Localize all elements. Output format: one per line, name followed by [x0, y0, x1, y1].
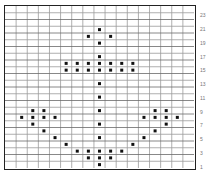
stitch-dot [87, 62, 90, 65]
stitch-dot [98, 163, 101, 166]
stitch-dot [87, 156, 90, 159]
row-number-labels: 2321191715131197531 [200, 5, 209, 170]
stitch-dot [120, 150, 123, 153]
stitch-dot [154, 129, 157, 132]
stitch-dot [54, 116, 57, 119]
stitch-dot [98, 82, 101, 85]
stitch-dot [98, 55, 101, 58]
row-label: 11 [200, 95, 205, 101]
row-label: 19 [200, 40, 206, 46]
stitch-dot [109, 156, 112, 159]
stitch-dot [31, 116, 34, 119]
stitch-dot [87, 35, 90, 38]
stitch-dot [165, 116, 168, 119]
stitch-dot [31, 109, 34, 112]
row-label: 21 [200, 26, 206, 32]
stitch-dot [98, 109, 101, 112]
stitch-dot [76, 150, 79, 153]
row-label: 5 [200, 136, 203, 142]
stitch-dot [98, 42, 101, 45]
stitch-dot [98, 156, 101, 159]
stitch-dot [98, 136, 101, 139]
row-label: 23 [200, 12, 206, 18]
stitch-dot [98, 150, 101, 153]
row-label: 7 [200, 122, 203, 128]
stitch-dot [20, 116, 23, 119]
row-label: 3 [200, 150, 203, 156]
stitch-dot [42, 109, 45, 112]
stitch-dot [42, 116, 45, 119]
stitch-dot [154, 109, 157, 112]
stitch-dot [109, 150, 112, 153]
stitch-dot [98, 69, 101, 72]
stitch-dot [109, 62, 112, 65]
stitch-dot [98, 123, 101, 126]
stitch-dot [154, 116, 157, 119]
stitch-dot [76, 62, 79, 65]
stitch-dot [142, 116, 145, 119]
stitch-dot [142, 136, 145, 139]
stitch-dot [65, 62, 68, 65]
pattern-chart [4, 5, 196, 170]
row-label: 9 [200, 109, 203, 115]
stitch-dot [31, 123, 34, 126]
row-label: 13 [200, 81, 206, 87]
stitch-dot [98, 28, 101, 31]
stitch-dot [109, 69, 112, 72]
stitch-grid [5, 6, 194, 168]
stitch-dot [65, 69, 68, 72]
stitch-dot [176, 116, 179, 119]
stitch-dot [109, 35, 112, 38]
stitch-dot [98, 96, 101, 99]
stitch-dot [87, 150, 90, 153]
stitch-dot [120, 69, 123, 72]
stitch-dot [65, 143, 68, 146]
stitch-dot [76, 69, 79, 72]
stitch-dot [120, 62, 123, 65]
row-label: 17 [200, 54, 206, 60]
stitch-dot [165, 123, 168, 126]
row-label: 15 [200, 67, 206, 73]
stitch-dot [87, 69, 90, 72]
stitch-dot [131, 69, 134, 72]
row-label: 1 [200, 164, 203, 170]
stitch-dot [98, 62, 101, 65]
stitch-dot [131, 62, 134, 65]
stitch-dot [54, 136, 57, 139]
stitch-dot [165, 109, 168, 112]
stitch-dot [42, 129, 45, 132]
stitch-dot [131, 143, 134, 146]
